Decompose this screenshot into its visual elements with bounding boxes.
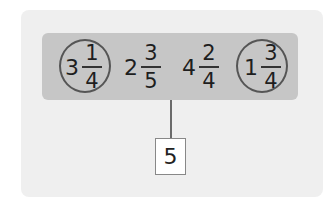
numerator: 2 xyxy=(202,42,215,64)
whole-part: 3 xyxy=(65,55,79,80)
denominator: 4 xyxy=(85,70,98,92)
fraction-bar xyxy=(261,66,281,68)
mixed-number-4: 1 3 4 xyxy=(244,38,281,96)
numerator: 1 xyxy=(85,42,98,64)
mixed-number-3: 4 2 4 xyxy=(182,38,219,96)
denominator: 4 xyxy=(202,70,215,92)
fraction: 1 4 xyxy=(82,42,102,92)
fraction-bar xyxy=(141,66,161,68)
whole-part: 4 xyxy=(182,55,196,80)
fraction: 2 4 xyxy=(199,42,219,92)
numerator: 3 xyxy=(264,42,277,64)
mixed-number-1: 3 1 4 xyxy=(65,38,102,96)
denominator: 5 xyxy=(144,70,157,92)
fraction: 3 5 xyxy=(141,42,161,92)
fraction-bar xyxy=(199,66,219,68)
fraction-bar xyxy=(82,66,102,68)
numerator: 3 xyxy=(144,42,157,64)
fraction: 3 4 xyxy=(261,42,281,92)
answer-box: 5 xyxy=(155,138,186,175)
denominator: 4 xyxy=(264,70,277,92)
mixed-number-2: 2 3 5 xyxy=(124,38,161,96)
connector-line xyxy=(170,100,172,139)
whole-part: 2 xyxy=(124,55,138,80)
whole-part: 1 xyxy=(244,55,258,80)
